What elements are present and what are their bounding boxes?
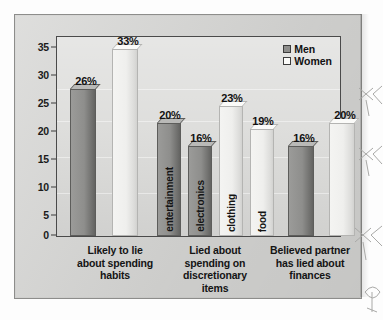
x-axis-labels: Likely to lie about spending habits Lied… [56,240,341,296]
bar-women-33 [112,49,138,236]
x-label-line: about spending [56,257,174,270]
value-label-20: 20% [159,109,180,121]
y-tick-35: 35 [0,41,56,53]
y-tick-mark-icon [51,235,56,236]
bar-men-entertainment-20: entertainment [157,123,181,236]
bar-women-20 [329,123,355,236]
bar-front-face [329,123,355,236]
x-label-line: has lied about [251,257,369,270]
y-tick-mark-icon [51,215,56,216]
bar-men-16 [288,146,314,236]
x-label-line: finances [251,269,369,282]
y-tick-30: 30 [0,69,56,81]
value-label-20b: 20% [334,109,355,121]
y-tick-mark-icon [51,47,56,48]
x-label-line: habits [56,269,174,282]
x-label-line: Likely to lie [56,244,174,257]
x-label-line: Believed partner [251,244,369,257]
bar-front-face [288,146,314,236]
y-tick-10: 10 [0,181,56,193]
bar-front-face [219,106,243,236]
bar-men-26 [70,89,96,236]
bar-front-face [157,123,181,236]
bar-front-face [250,129,274,236]
y-tick-15: 15 [0,153,56,165]
bar-front-face [188,146,212,236]
bar-front-face [112,49,138,236]
y-tick-mark-icon [51,103,56,104]
y-tick-25: 25 [0,97,56,109]
y-tick-0: 0 [0,229,56,241]
y-tick-mark-icon [51,187,56,188]
x-label-line: items [160,282,270,295]
bar-women-clothing-23: clothing [219,106,243,236]
value-label-16: 16% [190,132,211,144]
bar-front-face [70,89,96,236]
value-label-16b: 16% [293,132,314,144]
value-label-23: 23% [221,92,242,104]
y-axis: 35 30 25 20 15 10 5 0 [0,36,56,237]
y-tick-mark-icon [51,159,56,160]
value-label-26: 26% [75,75,96,87]
panel-edge-shadow [360,14,369,297]
x-category-label-3: Believed partner has lied about finances [251,244,369,282]
chart-screenshot: Men Women 35 30 25 20 15 10 5 0 [0,0,383,320]
bar-women-food-19: food [250,129,274,236]
y-tick-mark-icon [51,131,56,132]
bars-layer: entertainment electronics clothing food [57,37,340,236]
bar-men-electronics-16: electronics [188,146,212,236]
y-tick-mark-icon [51,75,56,76]
value-label-19: 19% [252,115,273,127]
value-label-33: 33% [117,35,138,47]
y-tick-5: 5 [0,209,56,221]
x-category-label-1: Likely to lie about spending habits [56,244,174,282]
y-tick-20: 20 [0,125,56,137]
